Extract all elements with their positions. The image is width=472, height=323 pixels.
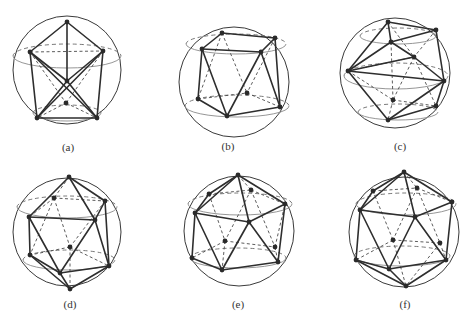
hidden-edge bbox=[414, 30, 436, 57]
hidden-edge bbox=[247, 38, 275, 93]
panel-a-polyhedron: (a) bbox=[13, 16, 121, 154]
visible-edge bbox=[373, 172, 404, 191]
visible-edge bbox=[415, 217, 446, 260]
vertex-dot bbox=[64, 101, 69, 106]
vertex-dot bbox=[371, 189, 376, 194]
polyhedra-figure: (a) (b) (c) (d) (e) (f) bbox=[0, 0, 472, 323]
vertex-dot bbox=[65, 20, 70, 25]
visible-edge bbox=[192, 213, 195, 258]
visible-edge bbox=[60, 220, 95, 273]
vertex-dot bbox=[389, 40, 394, 45]
panel-c-polyhedron: (c) bbox=[340, 18, 450, 153]
panel-f-caption: (f) bbox=[400, 298, 411, 311]
vertex-dot bbox=[391, 238, 396, 243]
hidden-edge bbox=[391, 42, 393, 100]
vertex-dot bbox=[387, 267, 392, 272]
vertex-dot bbox=[28, 50, 33, 55]
vertex-dot bbox=[391, 98, 396, 103]
vertex-dot bbox=[444, 258, 449, 263]
vertex-dot bbox=[220, 268, 225, 273]
vertex-dot bbox=[95, 116, 100, 121]
visible-edge bbox=[249, 204, 285, 222]
vertex-dot bbox=[273, 245, 278, 250]
visible-edge bbox=[249, 222, 278, 262]
vertex-dot bbox=[223, 239, 228, 244]
hidden-edge bbox=[373, 191, 393, 240]
vertex-dot bbox=[386, 20, 391, 25]
visible-edge bbox=[404, 172, 452, 202]
vertex-dot bbox=[68, 287, 73, 292]
visible-edge bbox=[360, 210, 415, 217]
vertex-dot bbox=[65, 79, 70, 84]
vertex-dot bbox=[93, 218, 98, 223]
vertex-dot bbox=[28, 253, 33, 258]
visible-edge bbox=[202, 49, 227, 116]
visible-edge bbox=[95, 201, 105, 220]
visible-edge bbox=[37, 51, 103, 118]
hidden-edge bbox=[54, 198, 70, 247]
visible-edge bbox=[389, 260, 446, 269]
latitude-ring-back bbox=[344, 63, 448, 76]
vertex-dot bbox=[273, 36, 278, 41]
panel-d-caption: (d) bbox=[64, 298, 77, 311]
vertex-dot bbox=[434, 104, 439, 109]
vertex-dot bbox=[58, 271, 63, 276]
hidden-edge bbox=[406, 243, 440, 286]
visible-edge bbox=[389, 217, 415, 269]
visible-edge bbox=[97, 51, 103, 118]
vertex-dot bbox=[259, 50, 264, 55]
visible-edge bbox=[67, 22, 103, 51]
visible-edge bbox=[348, 71, 388, 120]
vertex-dot bbox=[442, 79, 447, 84]
visible-edge bbox=[436, 30, 444, 81]
latitude-ring-back bbox=[358, 104, 438, 112]
vertex-dot bbox=[346, 69, 351, 74]
visible-edge bbox=[388, 106, 436, 120]
visible-edge bbox=[222, 262, 278, 270]
visible-edge bbox=[202, 49, 261, 52]
visible-edge bbox=[222, 222, 249, 270]
visible-edge bbox=[227, 107, 280, 116]
panel-d-polyhedron: (d) bbox=[13, 175, 121, 311]
visible-edge bbox=[29, 217, 30, 255]
visible-edge bbox=[198, 49, 202, 99]
vertex-dot bbox=[415, 186, 420, 191]
panel-a-caption: (a) bbox=[62, 141, 75, 154]
visible-edge bbox=[348, 71, 444, 81]
vertex-dot bbox=[438, 241, 443, 246]
visible-edge bbox=[388, 22, 391, 42]
vertex-dot bbox=[190, 256, 195, 261]
visible-edge bbox=[238, 175, 285, 204]
vertex-dot bbox=[200, 47, 205, 52]
hidden-edge bbox=[373, 188, 417, 191]
vertex-dot bbox=[220, 31, 225, 36]
visible-edge bbox=[388, 81, 444, 120]
vertex-dot bbox=[413, 215, 418, 220]
vertex-dot bbox=[245, 91, 250, 96]
sphere-outline bbox=[349, 177, 459, 287]
vertex-dot bbox=[101, 49, 106, 54]
visible-edge bbox=[388, 22, 436, 30]
vertex-dot bbox=[283, 202, 288, 207]
vertex-dot bbox=[193, 211, 198, 216]
vertex-dot bbox=[35, 116, 40, 121]
latitude-ring-back bbox=[354, 246, 450, 256]
vertex-dot bbox=[247, 220, 252, 225]
panel-f-polyhedron: (f) bbox=[349, 170, 459, 311]
hidden-edge bbox=[54, 198, 105, 201]
visible-edge bbox=[198, 99, 227, 116]
hidden-edge bbox=[198, 93, 247, 99]
vertex-dot bbox=[278, 105, 283, 110]
panel-c-caption: (c) bbox=[394, 140, 407, 153]
latitude-ring-back bbox=[360, 28, 436, 36]
hidden-edge bbox=[225, 241, 275, 247]
panel-b-caption: (b) bbox=[222, 140, 235, 153]
latitude-ring-front bbox=[33, 113, 101, 121]
hidden-edge bbox=[192, 241, 225, 258]
panel-e-caption: (e) bbox=[232, 298, 245, 311]
vertex-dot bbox=[107, 264, 112, 269]
vertex-dot bbox=[412, 55, 417, 60]
vertex-dot bbox=[402, 170, 407, 175]
vertex-dot bbox=[68, 245, 73, 250]
vertex-dot bbox=[434, 28, 439, 33]
